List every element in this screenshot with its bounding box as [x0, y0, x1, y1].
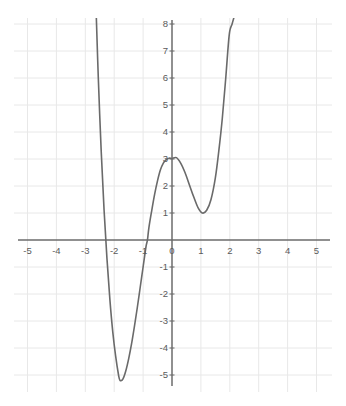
x-axis-tick-label: 4 [285, 246, 290, 256]
y-axis-tick-label: 5 [154, 100, 168, 110]
x-axis-tick-label: 1 [198, 246, 203, 256]
y-axis-tick-label: -4 [154, 343, 168, 353]
graph-canvas: -5-4-3-2-1012345 87654321-1-2-3-4-5 [0, 0, 346, 406]
x-axis-tick-label: 5 [314, 246, 319, 256]
x-axis-tick-label: -5 [23, 246, 31, 256]
x-axis-tick-label: 3 [256, 246, 261, 256]
y-axis-tick-label: 3 [154, 154, 168, 164]
y-axis-tick-label: 1 [154, 208, 168, 218]
y-axis-tick-label: 7 [154, 46, 168, 56]
y-axis-tick-label: -1 [154, 262, 168, 272]
y-axis-tick-label: 8 [154, 19, 168, 29]
x-axis-tick-label: -4 [52, 246, 60, 256]
x-axis-tick-label: -2 [110, 246, 118, 256]
y-axis-tick-label: -5 [154, 370, 168, 380]
y-axis-tick-label: -2 [154, 289, 168, 299]
x-axis-tick-label: -1 [139, 246, 147, 256]
x-axis-tick-label: -3 [81, 246, 89, 256]
plot-svg [0, 0, 346, 406]
y-axis-tick-label: 4 [154, 127, 168, 137]
x-axis-tick-label: 0 [169, 246, 174, 256]
x-axis-tick-label: 2 [227, 246, 232, 256]
axes-group [18, 20, 330, 386]
y-axis-tick-label: 2 [154, 181, 168, 191]
y-axis-tick-label: -3 [154, 316, 168, 326]
y-axis-tick-label: 6 [154, 73, 168, 83]
gridlines-group [14, 18, 332, 392]
